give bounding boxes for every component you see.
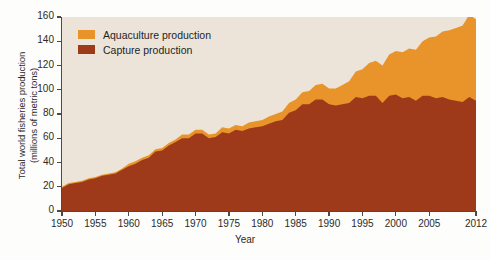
legend-swatch-capture xyxy=(78,45,95,54)
x-tick-mark xyxy=(61,212,62,216)
y-tick-label: 120 xyxy=(14,59,54,70)
y-axis-line xyxy=(61,17,62,212)
x-tick-mark xyxy=(362,212,363,216)
y-tick-label: 140 xyxy=(14,34,54,45)
legend-item-aquaculture: Aquaculture production xyxy=(78,27,211,42)
y-tick-label: 100 xyxy=(14,83,54,94)
x-tick-mark xyxy=(328,212,329,216)
x-tick-mark xyxy=(195,212,196,216)
y-tick-mark xyxy=(57,16,61,17)
y-tick-label: 20 xyxy=(14,180,54,191)
y-tick-mark xyxy=(57,210,61,211)
y-tick-label: 0 xyxy=(14,204,54,215)
legend-item-capture: Capture production xyxy=(78,42,211,57)
x-tick-mark xyxy=(429,212,430,216)
y-tick-label: 160 xyxy=(14,10,54,21)
x-tick-mark xyxy=(128,212,129,216)
y-tick-mark xyxy=(57,113,61,114)
x-tick-label: 2012 xyxy=(456,218,490,229)
y-tick-label: 60 xyxy=(14,131,54,142)
y-tick-mark xyxy=(57,138,61,139)
x-tick-mark xyxy=(162,212,163,216)
x-axis-title: Year xyxy=(0,234,490,245)
y-tick-mark xyxy=(57,65,61,66)
x-tick-label: 2005 xyxy=(409,218,449,229)
chart-legend: Aquaculture production Capture productio… xyxy=(78,27,211,57)
y-tick-mark xyxy=(57,162,61,163)
y-tick-mark xyxy=(57,89,61,90)
y-tick-label: 40 xyxy=(14,156,54,167)
legend-swatch-aquaculture xyxy=(78,30,95,39)
x-axis-line xyxy=(61,211,477,212)
y-tick-mark xyxy=(57,186,61,187)
x-tick-mark xyxy=(395,212,396,216)
x-tick-mark xyxy=(262,212,263,216)
fisheries-production-chart: Total world fisheries production (millio… xyxy=(0,0,490,260)
x-tick-mark xyxy=(95,212,96,216)
y-tick-label: 80 xyxy=(14,107,54,118)
x-tick-mark xyxy=(475,212,476,216)
area-capture-production xyxy=(62,95,476,211)
x-tick-mark xyxy=(295,212,296,216)
legend-label-capture: Capture production xyxy=(103,44,192,56)
x-tick-mark xyxy=(228,212,229,216)
y-tick-mark xyxy=(57,41,61,42)
legend-label-aquaculture: Aquaculture production xyxy=(103,29,211,41)
